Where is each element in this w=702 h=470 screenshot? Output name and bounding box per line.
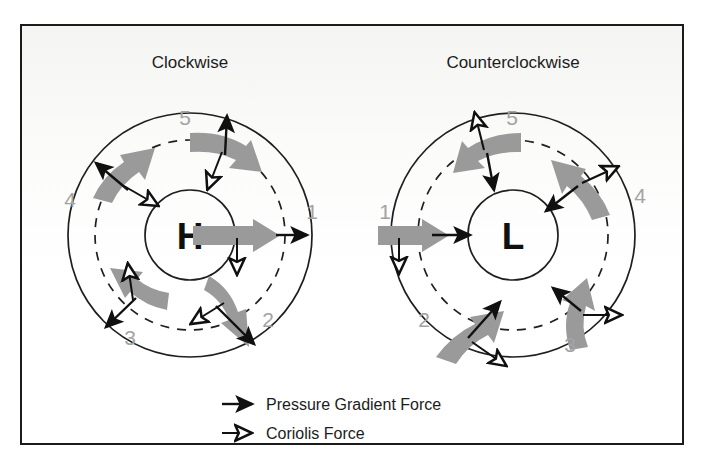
station-2-high: 2 [192, 276, 274, 347]
wind-arrow-4-low [551, 160, 610, 220]
pressure-center-label-l: L [502, 216, 525, 257]
station-number-4-high: 4 [64, 188, 76, 211]
legend-label-coriolis-force: Coriolis Force [266, 425, 365, 442]
panel-title-counterclockwise: Counterclockwise [446, 53, 579, 72]
station-number-5-high: 5 [179, 106, 191, 129]
station-number-1-high: 1 [306, 200, 318, 223]
legend: Pressure Gradient Force Coriolis Force [222, 396, 441, 442]
station-2-low: 2 [418, 302, 505, 365]
station-3-low: 3 [553, 278, 620, 356]
station-1-low: 1 [378, 200, 470, 272]
coriolis-arrow-2-high [192, 303, 224, 323]
weather-forces-diagram: Clockwise H 1 2 [0, 0, 702, 470]
coriolis-arrow-2-low [472, 342, 505, 365]
station-4-high: 4 [64, 148, 157, 211]
panel-title-clockwise: Clockwise [152, 53, 229, 72]
diagram-canvas: Clockwise H 1 2 [0, 0, 702, 470]
station-number-1-low: 1 [379, 200, 391, 223]
panel-high-pressure: Clockwise H 1 2 [64, 53, 318, 357]
station-1-high: 1 [193, 200, 318, 273]
legend-label-pressure-gradient-force: Pressure Gradient Force [266, 396, 441, 413]
station-number-2-low: 2 [418, 308, 430, 331]
station-5-low: 5 [453, 106, 521, 190]
station-number-4-low: 4 [634, 184, 646, 207]
wind-arrow-4-high [93, 148, 155, 203]
legend-row-coriolis: Coriolis Force [222, 425, 365, 442]
station-number-3-high: 3 [124, 326, 136, 349]
station-number-2-high: 2 [262, 308, 274, 331]
coriolis-arrow-4-high [124, 186, 157, 205]
station-number-3-low: 3 [564, 333, 576, 356]
station-number-5-low: 5 [506, 106, 518, 129]
pgf-arrow-5-low [487, 153, 494, 190]
station-3-high: 3 [106, 265, 169, 349]
panel-low-pressure: Counterclockwise L 1 2 [378, 53, 646, 365]
pgf-arrow-3-high [106, 298, 136, 327]
wind-arrow-3-high [110, 268, 169, 310]
coriolis-arrow-5-high [208, 152, 222, 188]
station-5-high: 5 [179, 106, 262, 188]
legend-row-pressure-gradient: Pressure Gradient Force [222, 396, 441, 413]
